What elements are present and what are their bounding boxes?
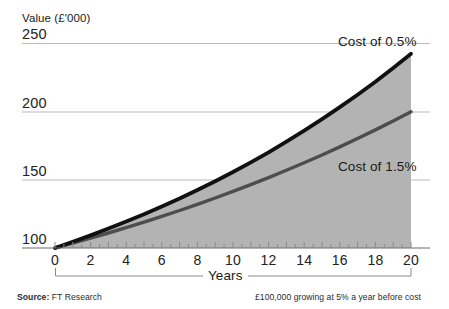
x-tick-label-12: 12 [254, 252, 284, 268]
series-label-cost-0-5: Cost of 0.5% [338, 34, 417, 49]
footer-source-label: Source: [17, 292, 49, 302]
footer-source-value: FT Research [52, 292, 102, 302]
x-tick-label-0: 0 [45, 252, 65, 268]
x-tick-label-8: 8 [187, 252, 207, 268]
footer-note: £100,000 growing at 5% a year before cos… [255, 292, 421, 302]
x-tick-label-14: 14 [289, 252, 319, 268]
x-tick-label-6: 6 [152, 252, 172, 268]
chart-container: Value (£'000) 250 200 150 100 [0, 0, 449, 309]
x-tick-label-16: 16 [325, 252, 355, 268]
area-fill [55, 54, 411, 248]
x-tick-label-20: 20 [396, 252, 426, 268]
series-label-cost-1-5: Cost of 1.5% [338, 159, 417, 174]
x-axis-title: Years [203, 268, 248, 283]
x-tick-label-18: 18 [360, 252, 390, 268]
x-tick-label-10: 10 [218, 252, 248, 268]
x-tick-label-2: 2 [81, 252, 101, 268]
x-axis-ticks [55, 242, 411, 248]
x-tick-label-4: 4 [116, 252, 136, 268]
footer-source: Source: FT Research [17, 292, 102, 302]
